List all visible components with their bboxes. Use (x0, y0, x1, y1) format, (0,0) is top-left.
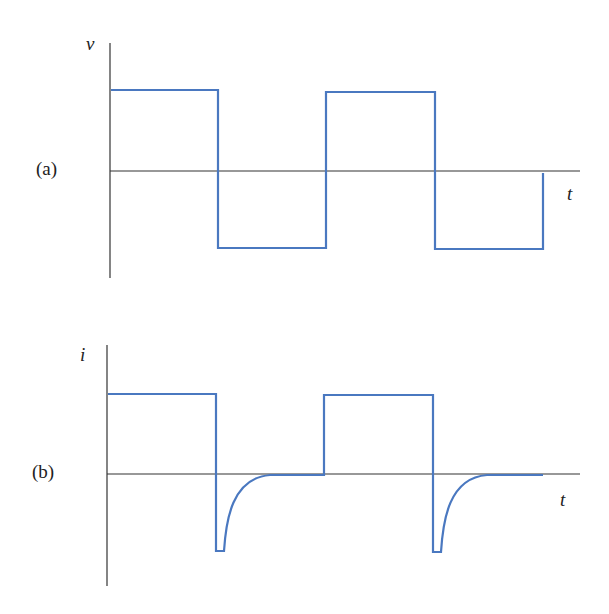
current-waveform (108, 394, 543, 552)
panel-b: i t (b) (32, 344, 580, 586)
panel-b-label: (b) (32, 461, 54, 483)
panel-a-label: (a) (36, 158, 57, 180)
t-axis-label-a: t (567, 183, 573, 204)
voltage-waveform (111, 90, 543, 249)
i-axis-label: i (80, 344, 85, 365)
waveform-diagram: v t (a) i t (b) (0, 0, 609, 614)
panel-a: v t (a) (36, 33, 580, 278)
t-axis-label-b: t (560, 489, 566, 510)
v-axis-label: v (86, 33, 95, 54)
